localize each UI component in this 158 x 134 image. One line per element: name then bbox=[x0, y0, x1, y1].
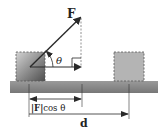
component-label-cos: cos θ bbox=[43, 103, 65, 113]
displacement-label: d bbox=[80, 117, 88, 130]
work-diagram: F θ |F|cos θ d bbox=[0, 0, 158, 134]
angle-arc bbox=[46, 51, 53, 67]
right-angle-marker bbox=[72, 58, 81, 67]
force-label: F bbox=[67, 7, 76, 21]
box-final bbox=[114, 52, 144, 81]
component-label-magnitude: |F| bbox=[31, 103, 43, 114]
angle-label: θ bbox=[56, 55, 62, 66]
ground-surface bbox=[10, 81, 158, 93]
force-vector-arrow bbox=[30, 18, 80, 67]
component-label: |F|cos θ bbox=[31, 103, 65, 114]
